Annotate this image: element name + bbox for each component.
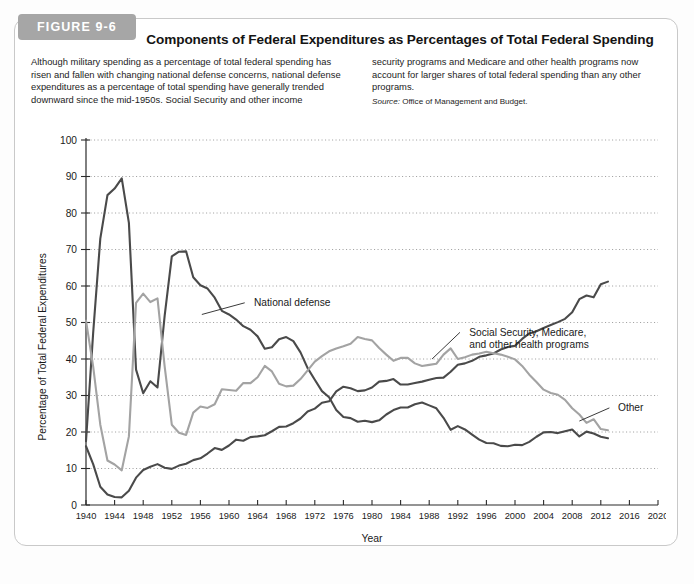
y-tick-label: 70 — [66, 244, 78, 255]
y-tick-label: 40 — [66, 354, 78, 365]
x-tick-label: 2000 — [505, 511, 526, 521]
x-tick-label: 1952 — [161, 511, 182, 521]
chart-plot-area: 0102030405060708090100 19401944194819521… — [26, 126, 666, 546]
y-tick-label: 20 — [66, 427, 78, 438]
x-axis-ticks-group: 1940194419481952195619601964196819721976… — [76, 500, 666, 521]
x-tick-label: 1944 — [104, 511, 125, 521]
x-tick-label: 1980 — [362, 511, 383, 521]
figure-title: Components of Federal Expenditures as Pe… — [140, 32, 660, 47]
caption-column-right: security programs and Medicare and other… — [372, 56, 672, 107]
x-tick-label: 1940 — [76, 511, 97, 521]
x-tick-label: 1976 — [333, 511, 354, 521]
line-chart-svg: 0102030405060708090100 19401944194819521… — [26, 126, 666, 546]
figure-number-label: FIGURE 9-6 — [37, 20, 117, 34]
x-tick-label: 1972 — [304, 511, 325, 521]
figure-page: FIGURE 9-6 Components of Federal Expendi… — [0, 0, 694, 584]
y-tick-label: 0 — [71, 500, 77, 511]
x-axis-title: Year — [362, 533, 384, 544]
source-text: Office of Management and Budget. — [400, 97, 528, 106]
x-tick-label: 1948 — [133, 511, 154, 521]
x-tick-label: 1992 — [447, 511, 468, 521]
figure-number-tab: FIGURE 9-6 — [18, 14, 136, 40]
series-annotation-label: Social Security, Medicare, — [469, 327, 586, 338]
x-tick-label: 1956 — [190, 511, 211, 521]
caption-column-left: Although military spending as a percenta… — [31, 56, 347, 106]
source-prefix: Source: — [372, 97, 400, 106]
y-tick-label: 100 — [60, 135, 77, 146]
x-tick-label: 2012 — [590, 511, 611, 521]
x-tick-label: 1984 — [390, 511, 411, 521]
figure-source: Source: Office of Management and Budget. — [372, 96, 672, 107]
x-tick-label: 2008 — [562, 511, 583, 521]
x-tick-label: 2004 — [533, 511, 554, 521]
x-tick-label: 2016 — [619, 511, 640, 521]
x-tick-label: 1996 — [476, 511, 497, 521]
series-line — [86, 178, 608, 446]
x-tick-label: 1960 — [219, 511, 240, 521]
series-annotation-label: Other — [618, 402, 644, 413]
y-axis-title: Percentage of Total Federal Expenditures — [37, 253, 48, 440]
series-annotation-label: and other health programs — [469, 339, 589, 350]
y-tick-label: 80 — [66, 208, 78, 219]
gridlines-group — [87, 140, 658, 469]
y-tick-label: 60 — [66, 281, 78, 292]
series-annotation-label: National defense — [254, 297, 331, 308]
y-tick-label: 10 — [66, 463, 78, 474]
y-tick-label: 50 — [66, 317, 78, 328]
x-tick-label: 1988 — [419, 511, 440, 521]
y-tick-label: 30 — [66, 390, 78, 401]
x-tick-label: 1964 — [247, 511, 268, 521]
caption-right-text: security programs and Medicare and other… — [372, 56, 672, 94]
x-tick-label: 2020 — [648, 511, 666, 521]
y-tick-label: 90 — [66, 171, 78, 182]
x-tick-label: 1968 — [276, 511, 297, 521]
